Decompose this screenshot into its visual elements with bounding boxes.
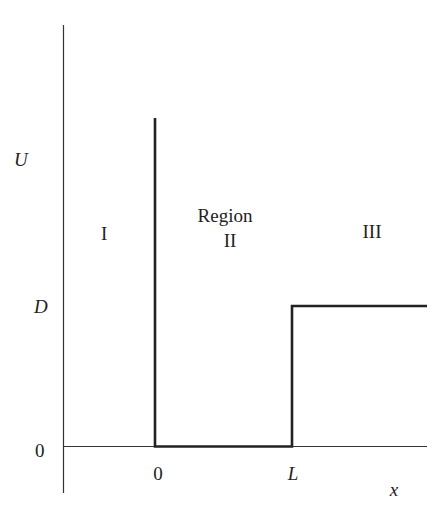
region-iii-label: III xyxy=(363,221,382,242)
region-ii-label-line2: II xyxy=(224,230,237,251)
x-tick-l: L xyxy=(287,463,299,484)
x-axis-label: x xyxy=(389,479,399,500)
region-ii-label-line1: Region xyxy=(198,205,253,226)
y-tick-d: D xyxy=(33,296,48,317)
x-tick-0: 0 xyxy=(153,463,163,484)
region-i-label: I xyxy=(101,223,107,244)
y-tick-0: 0 xyxy=(35,440,45,461)
potential-curve xyxy=(155,118,427,447)
potential-diagram: U I Region II III D 0 0 L x xyxy=(0,0,444,520)
y-axis-label: U xyxy=(14,149,29,170)
